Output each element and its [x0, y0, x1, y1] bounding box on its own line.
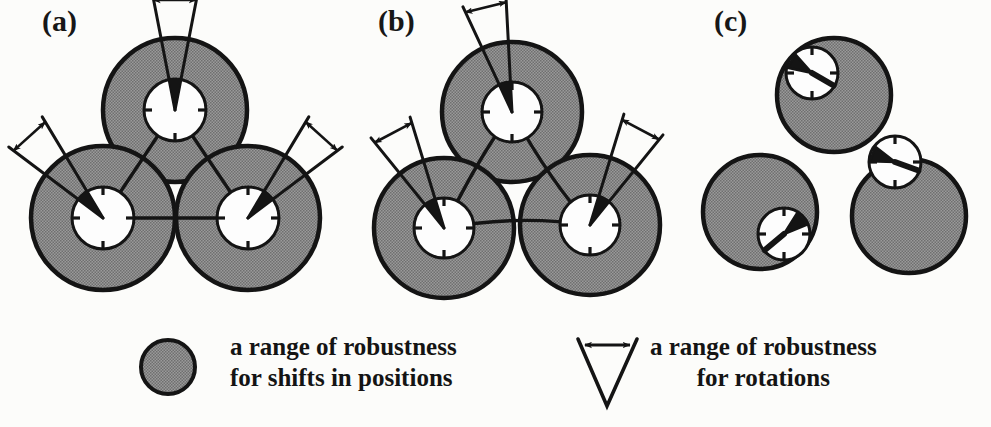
legend-caption-rotations-line-2: for rotations	[650, 363, 877, 394]
figure-canvas: (a) (b) (c) a range of robustness for sh…	[0, 0, 991, 427]
legend-caption-positions: a range of robustness for shifts in posi…	[230, 332, 457, 393]
legend-caption-positions-line-2: for shifts in positions	[230, 363, 457, 394]
legend-caption-rotations-line-1: a range of robustness	[650, 332, 877, 363]
rotation-arrow-b-top	[466, 2, 507, 12]
legend-swatch-range-circle	[141, 340, 195, 394]
panel-b	[371, 0, 663, 298]
rotation-arrow-b-bottom-right	[622, 120, 659, 140]
panel-a	[9, 0, 342, 290]
legend-swatch-wedge	[578, 339, 637, 406]
panel-c	[703, 38, 966, 273]
rotation-arrow-b-bottom-left	[375, 123, 412, 143]
rotation-arrow-a-bottom-left	[14, 122, 46, 151]
rotation-arrow-a-bottom-right	[306, 122, 338, 151]
legend-caption-positions-line-1: a range of robustness	[230, 332, 457, 363]
legend-caption-rotations: a range of robustness for rotations	[650, 332, 877, 393]
